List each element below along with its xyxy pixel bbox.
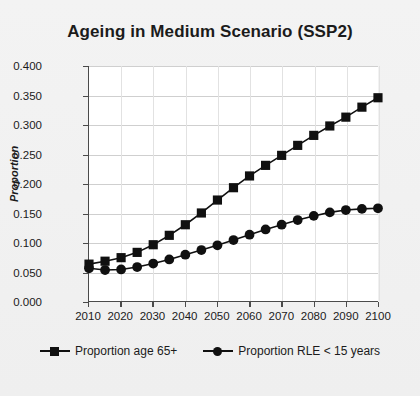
y-tick-label: 0.000	[0, 296, 42, 308]
plot-wrapper: 0.0000.0500.1000.1500.2000.2500.3000.350…	[88, 66, 378, 302]
x-tick	[281, 302, 282, 307]
legend-label: Proportion age 65+	[75, 344, 177, 358]
data-point-circle	[100, 265, 110, 275]
data-point-circle	[116, 265, 126, 275]
data-point-square	[149, 240, 158, 249]
data-point-square	[197, 208, 206, 217]
data-point-circle	[277, 220, 287, 230]
data-point-square	[341, 113, 350, 122]
legend-label: Proportion RLE < 15 years	[238, 344, 380, 358]
x-tick	[378, 302, 379, 307]
y-tick	[83, 273, 88, 274]
y-tick-label: 0.050	[0, 267, 42, 279]
data-point-square	[309, 131, 318, 140]
x-tick	[314, 302, 315, 307]
y-tick	[83, 66, 88, 67]
data-point-circle	[213, 240, 223, 250]
data-point-square	[165, 231, 174, 240]
data-point-square	[181, 220, 190, 229]
data-point-square	[325, 121, 334, 130]
data-point-square	[245, 171, 254, 180]
y-tick	[83, 184, 88, 185]
x-tick	[346, 302, 347, 307]
data-point-square	[100, 257, 109, 266]
y-tick-label: 0.400	[0, 60, 42, 72]
x-tick-label: 2100	[356, 310, 400, 322]
data-point-circle	[293, 215, 303, 225]
data-point-circle	[196, 245, 206, 255]
data-point-circle	[325, 208, 335, 218]
data-point-circle	[148, 259, 158, 269]
y-tick-label: 0.200	[0, 178, 42, 190]
y-axis-label: Proportion	[8, 129, 20, 219]
data-point-square	[293, 141, 302, 150]
y-tick	[83, 214, 88, 215]
data-point-square	[133, 248, 142, 257]
data-point-circle	[341, 205, 351, 215]
data-point-circle	[357, 204, 367, 214]
data-point-square	[357, 103, 366, 112]
circle-marker-icon	[203, 345, 233, 357]
y-tick	[83, 125, 88, 126]
data-point-circle	[180, 250, 190, 260]
y-tick	[83, 243, 88, 244]
y-tick-label: 0.300	[0, 119, 42, 131]
data-point-circle	[373, 203, 383, 213]
series-layer	[89, 66, 378, 301]
data-point-square	[277, 151, 286, 160]
y-tick-label: 0.250	[0, 149, 42, 161]
chart-legend: Proportion age 65+ Proportion RLE < 15 y…	[0, 344, 420, 358]
x-tick	[152, 302, 153, 307]
chart-title: Ageing in Medium Scenario (SSP2)	[0, 22, 420, 42]
square-marker-icon	[40, 345, 70, 357]
data-point-square	[117, 253, 126, 262]
data-point-square	[373, 93, 382, 102]
x-tick	[249, 302, 250, 307]
data-point-square	[229, 183, 238, 192]
y-tick-label: 0.100	[0, 237, 42, 249]
data-point-circle	[309, 211, 319, 221]
legend-item-rle: Proportion RLE < 15 years	[203, 344, 380, 358]
data-point-circle	[229, 235, 239, 245]
chart-figure: Ageing in Medium Scenario (SSP2) Proport…	[0, 0, 420, 396]
x-tick	[88, 302, 89, 307]
series-rle	[84, 203, 383, 274]
data-point-square	[261, 161, 270, 170]
legend-item-age65: Proportion age 65+	[40, 344, 177, 358]
x-tick	[185, 302, 186, 307]
y-tick-label: 0.150	[0, 208, 42, 220]
data-point-circle	[261, 225, 271, 235]
data-point-circle	[245, 230, 255, 240]
data-point-circle	[132, 262, 142, 272]
y-tick	[83, 96, 88, 97]
y-tick-label: 0.350	[0, 90, 42, 102]
plot-area	[88, 66, 378, 302]
x-tick	[120, 302, 121, 307]
x-tick	[217, 302, 218, 307]
data-point-square	[213, 195, 222, 204]
data-point-circle	[164, 255, 174, 265]
y-tick	[83, 155, 88, 156]
